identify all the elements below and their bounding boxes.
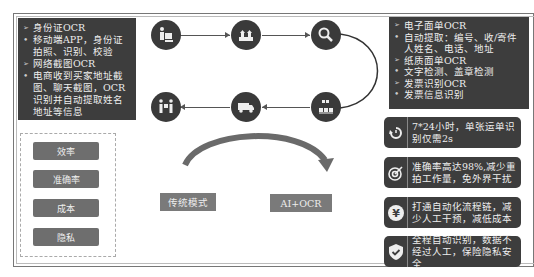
panel-heading: ➢发票识别OCR [394,78,524,90]
criteria-privacy: 隐私 [33,228,99,246]
traditional-mode-label: 传统模式 [160,193,216,211]
waybill-ocr-panel: ➢电子面单OCR •自动提取：编号、收/寄件人姓名、电话、地址 ➢纸质面单OCR… [389,17,529,109]
truck-icon [231,92,261,122]
flow-connector [180,35,230,36]
panel-bullet: •移动端APP，身份证拍照、识别、校验 [23,34,131,58]
criteria-cost: 成本 [33,199,99,217]
panel-heading: ➢身份证OCR [23,22,131,34]
panel-heading: ➢网络截图OCR [23,58,131,70]
panel-bullet: •发票信息识别 [394,89,524,101]
svg-text:¥: ¥ [392,207,400,220]
feature-card-privacy: 全程自动识别，数据不经过人工，保险隐私安全 [384,236,521,267]
flow-connector [262,107,310,108]
shield-check-icon [384,236,408,267]
panel-heading: ➢电子面单OCR [394,20,524,32]
sorting-icon [311,92,341,122]
target-icon [384,157,408,188]
flow-connector [180,107,230,108]
search-icon [311,20,341,50]
criteria-efficiency: 效率 [33,142,99,160]
panel-bullet: •电商收到买家地址截图、聊天截图，OCR识别并自动提取姓名地址等信息 [23,70,131,118]
delivery-handover-icon [151,92,181,122]
id-card-ocr-panel: ➢身份证OCR •移动端APP，身份证拍照、识别、校验 ➢网络截图OCR •电商… [18,18,136,120]
panel-bullet: •自动提取：编号、收/寄件人姓名、电话、地址 [394,32,524,55]
feature-card-speed: 7*24小时，单张运单识别仅需2s [384,117,521,148]
feature-card-cost: ¥ 打通自动化流程链，减少人工干预，减低成本 [384,197,521,228]
warehouse-icon [231,20,261,50]
criteria-accuracy: 准确率 [33,170,99,188]
worker-packing-icon [151,20,181,50]
yen-icon: ¥ [384,197,408,228]
ai-ocr-mode-label: AI+OCR [270,194,332,212]
panel-bullet: •文字检测、盖章检测 [394,66,524,78]
clock-24h-icon [384,117,408,148]
panel-heading: ➢纸质面单OCR [394,55,524,67]
feature-card-accuracy: 准确率高达98%,减少重拍工作量，免外界干扰 [384,157,521,188]
flow-connector [262,35,310,36]
